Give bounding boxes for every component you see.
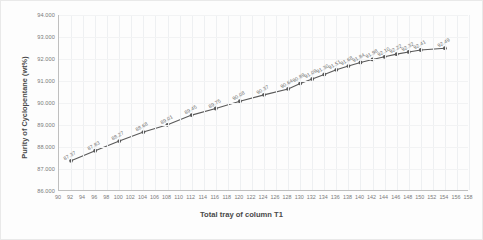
x-tick-label: 144 <box>379 194 388 200</box>
x-tick-label: 130 <box>295 194 304 200</box>
horizontal-gridline <box>59 147 468 148</box>
x-tick-label: 140 <box>355 194 364 200</box>
x-tick-label: 94 <box>79 194 85 200</box>
x-tick-label: 100 <box>114 194 123 200</box>
x-tick-label: 136 <box>331 194 340 200</box>
x-tick-label: 104 <box>138 194 147 200</box>
horizontal-gridline <box>59 125 468 126</box>
x-tick-label: 112 <box>186 194 195 200</box>
x-tick-label: 152 <box>427 194 436 200</box>
horizontal-gridline <box>59 81 468 82</box>
x-tick-label: 96 <box>91 194 97 200</box>
y-tick-label: 90.000 <box>37 100 55 106</box>
x-axis-tick-labels: 9092949698100102104106108110112114116118… <box>58 194 468 206</box>
x-tick-label: 134 <box>319 194 328 200</box>
x-tick-label: 108 <box>162 194 171 200</box>
y-tick-label: 89.000 <box>37 122 55 128</box>
x-tick-label: 142 <box>367 194 376 200</box>
vertical-gridline <box>469 15 470 190</box>
y-tick-label: 94.000 <box>37 12 55 18</box>
y-tick-label: 88.000 <box>37 144 55 150</box>
x-axis-title: Total tray of column T1 <box>1 210 482 219</box>
x-tick-label: 118 <box>223 194 232 200</box>
horizontal-gridline <box>59 103 468 104</box>
x-tick-label: 116 <box>210 194 219 200</box>
x-tick-label: 158 <box>464 194 473 200</box>
x-tick-label: 138 <box>343 194 352 200</box>
x-tick-label: 98 <box>103 194 109 200</box>
x-tick-label: 122 <box>246 194 255 200</box>
plot-area: 87.3787.8388.2788.6889.0189.4589.7590.08… <box>58 15 468 191</box>
x-tick-label: 90 <box>55 194 61 200</box>
horizontal-gridline <box>59 59 468 60</box>
x-tick-label: 124 <box>259 194 268 200</box>
x-tick-label: 154 <box>439 194 448 200</box>
x-tick-label: 128 <box>283 194 292 200</box>
y-tick-label: 91.000 <box>37 78 55 84</box>
chart-figure: 86.00087.00088.00089.00090.00091.00092.0… <box>0 0 483 240</box>
x-tick-label: 156 <box>451 194 460 200</box>
y-tick-label: 92.000 <box>37 56 55 62</box>
x-tick-label: 126 <box>271 194 280 200</box>
series-polyline <box>71 48 445 161</box>
y-tick-label: 87.000 <box>37 166 55 172</box>
horizontal-gridline <box>59 37 468 38</box>
x-tick-label: 150 <box>415 194 424 200</box>
x-tick-label: 110 <box>174 194 183 200</box>
x-tick-label: 114 <box>198 194 207 200</box>
horizontal-gridline <box>59 15 468 16</box>
x-tick-label: 92 <box>67 194 73 200</box>
x-tick-label: 148 <box>403 194 412 200</box>
y-tick-label: 86.000 <box>37 188 55 194</box>
x-tick-label: 106 <box>150 194 159 200</box>
x-tick-label: 132 <box>307 194 316 200</box>
y-axis-title: Purity of Cyclopentane (wt%) <box>20 33 29 183</box>
y-tick-label: 93.000 <box>37 34 55 40</box>
horizontal-gridline <box>59 169 468 170</box>
x-tick-label: 120 <box>234 194 243 200</box>
x-tick-label: 146 <box>391 194 400 200</box>
x-tick-label: 102 <box>126 194 135 200</box>
